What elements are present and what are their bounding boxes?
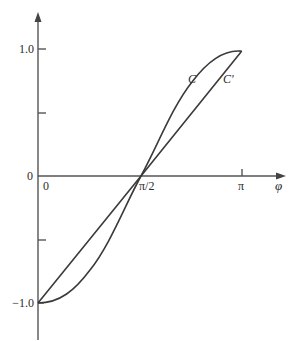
chart-plot: 1.0 0 −1.0 0 π/2 π φ C C' (0, 0, 300, 341)
y-label-1: 1.0 (19, 42, 34, 56)
x-label-0: 0 (43, 179, 49, 193)
y-label-0: 0 (27, 169, 33, 183)
x-label-pi: π (238, 179, 244, 193)
curve-c-label: C (188, 72, 197, 86)
x-axis-label: φ (275, 178, 282, 193)
curve-c-prime-label: C' (223, 72, 234, 86)
y-label-neg1: −1.0 (12, 296, 34, 310)
y-axis-arrow-icon (35, 12, 42, 22)
curve-c-prime (38, 52, 241, 303)
x-label-half-pi: π/2 (139, 179, 154, 193)
